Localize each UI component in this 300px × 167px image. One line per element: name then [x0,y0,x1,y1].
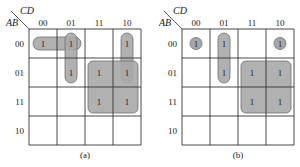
figure-caption: (b) [233,150,244,160]
cell-value: 1 [278,68,283,78]
col-header: 00 [39,18,49,28]
row-header: 01 [168,68,177,78]
col-var-label: CD [20,5,35,16]
row-var-label: AB [158,17,171,28]
cell-value: 1 [97,97,102,107]
row-header: 10 [168,126,178,136]
cell-value: 1 [125,39,130,49]
cell-value: 1 [194,39,199,49]
kmap-a-drawing: CDAB000111100001111011111111(a) [0,0,150,167]
cell-value: 1 [278,39,283,49]
row-header: 00 [15,39,25,49]
cell-value: 1 [69,39,74,49]
cell-value: 1 [41,39,46,49]
cell-value: 1 [125,68,130,78]
row-var-label: AB [5,17,18,28]
figure-caption: (a) [80,150,90,160]
kmap-a: CDAB000111100001111011111111(a) [0,0,150,167]
cell-value: 1 [69,68,74,78]
col-header: 10 [276,18,286,28]
cell-value: 1 [250,97,255,107]
col-header: 00 [192,18,202,28]
col-header: 01 [67,18,76,28]
cell-value: 1 [125,97,130,107]
row-header: 01 [15,68,24,78]
row-header: 10 [15,126,25,136]
col-header: 10 [123,18,133,28]
col-header: 11 [248,18,257,28]
kmap-b-drawing: CDAB000111100001111011111111(b) [153,0,300,167]
cell-value: 1 [250,68,255,78]
cell-value: 1 [97,68,102,78]
row-header: 00 [168,39,178,49]
cell-value: 1 [222,39,227,49]
col-header: 11 [95,18,104,28]
cell-value: 1 [222,68,227,78]
col-var-label: CD [173,5,188,16]
cell-value: 1 [278,97,283,107]
row-header: 11 [168,97,177,107]
kmap-b: CDAB000111100001111011111111(b) [153,0,300,167]
col-header: 01 [220,18,229,28]
row-header: 11 [15,97,24,107]
